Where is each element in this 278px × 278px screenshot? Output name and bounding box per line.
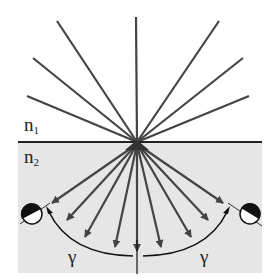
- upper-rays: [27, 17, 249, 142]
- incident-ray-6: [137, 58, 243, 142]
- diagram: n1 n2 γ γ: [0, 0, 278, 278]
- gamma-right-label: γ: [199, 246, 208, 267]
- gamma-left-label: γ: [67, 246, 76, 267]
- incident-ray-4: [136, 17, 137, 142]
- n1-label: n1: [24, 114, 39, 136]
- incident-ray-5: [137, 21, 219, 142]
- lower-medium: [18, 143, 262, 273]
- incident-ray-2: [33, 58, 137, 142]
- incident-ray-3: [57, 21, 137, 142]
